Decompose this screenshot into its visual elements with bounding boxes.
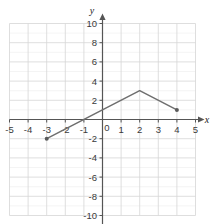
y-tick-label: 10 [86,18,97,29]
graph-canvas: 10 8 6 4 2 -2 -4 -6 -8 -10 -5 -4 -3 -2 -… [0,0,213,224]
y-tick-label: 4 [92,76,97,87]
y-tick-label: 2 [92,95,97,106]
endpoint-marker-end [175,108,179,112]
x-tick-label: 3 [156,124,161,135]
y-tick-label: -4 [89,152,97,163]
y-tick-label: 6 [92,56,97,67]
y-tick-label: -2 [89,133,97,144]
x-tick-label: 4 [174,124,179,135]
x-tick-label: -3 [42,124,50,135]
coordinate-graph: 10 8 6 4 2 -2 -4 -6 -8 -10 -5 -4 -3 -2 -… [0,0,213,224]
x-tick-label: 1 [118,124,123,135]
y-tick-label: -8 [89,191,97,202]
x-tick-label: -5 [5,124,13,135]
x-axis-arrow [198,116,205,122]
y-axis-label: y [89,5,95,16]
y-tick-label: -6 [89,172,97,183]
x-tick-label: -1 [80,124,88,135]
x-tick-label: 2 [137,124,142,135]
endpoint-marker-start [45,137,49,141]
origin-label: 0 [104,122,109,133]
y-tick-label: 8 [92,37,97,48]
y-axis-arrow [99,14,105,21]
x-axis-label: x [204,114,210,125]
x-tick-label: 5 [193,124,198,135]
y-tick-label: -10 [83,210,97,221]
x-tick-label: -4 [24,124,32,135]
